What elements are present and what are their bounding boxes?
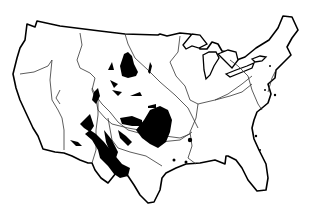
us-map (0, 0, 314, 209)
